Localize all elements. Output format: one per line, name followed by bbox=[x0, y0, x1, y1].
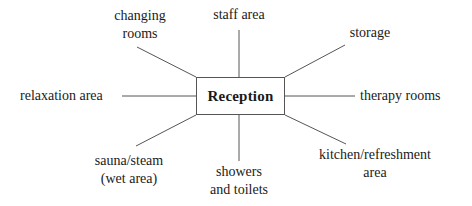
connector-sauna-steam bbox=[136, 115, 196, 146]
connector-kitchen-refreshment bbox=[285, 115, 346, 144]
node-label-line2: rooms bbox=[100, 25, 180, 43]
reception-label: Reception bbox=[208, 88, 274, 105]
node-label-line1: kitchen/refreshment bbox=[305, 146, 445, 164]
connector-changing-rooms bbox=[137, 47, 196, 77]
node-label-line1: relaxation area bbox=[20, 87, 120, 105]
node-kitchen-refreshment: kitchen/refreshment area bbox=[305, 146, 445, 182]
node-label-line2: (wet area) bbox=[84, 170, 174, 188]
node-label-line1: therapy rooms bbox=[360, 87, 460, 105]
node-staff-area: staff area bbox=[199, 6, 279, 24]
node-therapy-rooms: therapy rooms bbox=[360, 87, 460, 105]
node-label-line1: storage bbox=[335, 24, 405, 42]
connector-storage bbox=[285, 45, 345, 77]
node-storage: storage bbox=[335, 24, 405, 42]
node-label-line2: area bbox=[305, 164, 445, 182]
node-label-line1: showers bbox=[199, 163, 279, 181]
node-label-line2: and toilets bbox=[199, 181, 279, 199]
node-relaxation-area: relaxation area bbox=[20, 87, 120, 105]
reception-box: Reception bbox=[196, 77, 285, 115]
node-label-line1: changing bbox=[100, 7, 180, 25]
node-label-line1: staff area bbox=[199, 6, 279, 24]
node-changing-rooms: changing rooms bbox=[100, 7, 180, 43]
node-sauna-steam: sauna/steam (wet area) bbox=[84, 152, 174, 188]
node-label-line1: sauna/steam bbox=[84, 152, 174, 170]
spider-diagram: Reception changing rooms staff area stor… bbox=[0, 0, 472, 206]
node-showers-toilets: showers and toilets bbox=[199, 163, 279, 199]
